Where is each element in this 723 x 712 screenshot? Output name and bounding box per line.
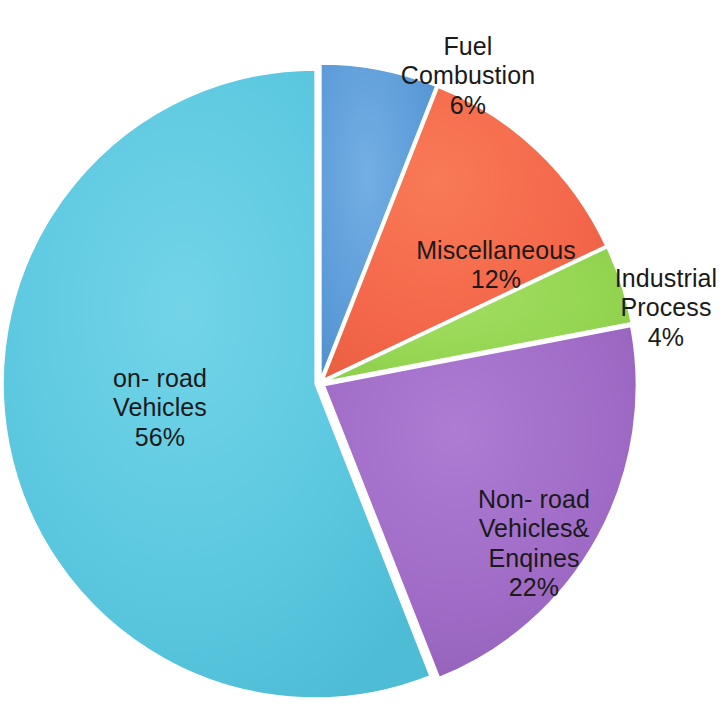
slice-label-industrial-process-text: Industrial Process (615, 264, 717, 322)
slice-value-onroad-vehicles: 56% (78, 423, 242, 453)
slice-label-onroad-vehicles: on- road Vehicles 56% (78, 334, 242, 482)
slice-label-nonroad-vehicles-engines-text: Non- road Vehicles& Enqines (478, 485, 590, 572)
slice-value-fuel-combustion: 6% (368, 91, 568, 121)
slice-label-nonroad-vehicles-engines: Non- road Vehicles& Enqines 22% (448, 455, 620, 632)
slice-value-industrial-process: 4% (608, 323, 723, 353)
slice-label-miscellaneous: Miscellaneous 12% (390, 206, 602, 324)
slice-label-miscellaneous-text: Miscellaneous (416, 236, 576, 264)
pie-chart-figure: Fuel Combustion 6% Miscellaneous 12% Ind… (0, 0, 723, 712)
slice-value-nonroad-vehicles-engines: 22% (448, 573, 620, 603)
slice-label-onroad-vehicles-text: on- road Vehicles (113, 364, 207, 422)
slice-value-miscellaneous: 12% (390, 265, 602, 295)
slice-label-fuel-combustion-text: Fuel Combustion (401, 32, 535, 90)
slice-label-industrial-process: Industrial Process 4% (608, 234, 723, 382)
slice-label-fuel-combustion: Fuel Combustion 6% (368, 2, 568, 150)
